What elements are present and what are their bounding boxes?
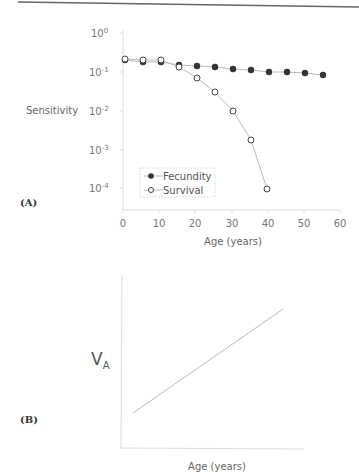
svg-text:40: 40 [262,218,275,229]
svg-text:10-1: 10-1 [89,66,109,78]
svg-text:30: 30 [226,218,239,229]
svg-text:10-2: 10-2 [89,105,109,117]
panel-b-y-axis [121,275,122,448]
panel-b-x-axis [120,448,304,449]
svg-text:100: 100 [91,27,108,39]
panel-b-x-label: Age (years) [188,461,246,472]
top-rule [18,2,359,7]
panel-b-y-label: VA [91,349,110,371]
svg-text:50: 50 [298,218,311,229]
svg-text:10-4: 10-4 [89,182,109,194]
svg-text:10: 10 [153,218,166,229]
legend-survival: Survival [163,185,203,196]
legend: Fecundity Survival [140,168,215,197]
figure: 100 10-1 10-2 10-3 10-4 0 10 20 30 40 50… [0,0,359,476]
panel-b-chart: VA Age (years) (B) [20,275,304,472]
panel-a-x-tick-labels: 0 10 20 30 40 50 60 [120,218,347,229]
svg-text:0: 0 [120,218,126,229]
panel-a-x-label: Age (years) [204,236,262,247]
fecundity-marker-icon [148,173,154,179]
panel-a-y-tick-labels: 100 10-1 10-2 10-3 10-4 [89,27,109,194]
survival-marker-icon [149,188,154,193]
panel-a-chart: 100 10-1 10-2 10-3 10-4 0 10 20 30 40 50… [20,27,346,247]
svg-text:60: 60 [334,218,347,229]
panel-a-label: (A) [20,197,37,208]
svg-text:20: 20 [189,218,202,229]
panel-a-y-label: Sensitivity [26,105,78,116]
svg-text:10-3: 10-3 [89,144,109,156]
panel-b-label: (B) [20,414,38,425]
panel-b-line [133,309,283,413]
legend-fecundity: Fecundity [163,171,212,182]
